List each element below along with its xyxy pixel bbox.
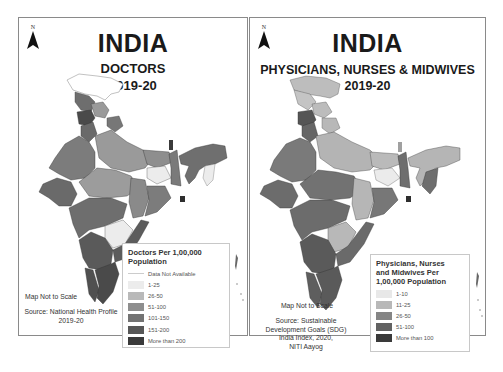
legend-item: 1-25 xyxy=(128,279,225,290)
legend-item: Data Not Available xyxy=(128,268,225,279)
legend-item: 51-100 xyxy=(376,322,465,333)
source-note: Source: Sustainable Development Goals (S… xyxy=(252,317,360,351)
map-panel-physicians-nurses-midwives: N INDIA PHYSICIANS, NURSES & MIDWIVES 20… xyxy=(249,17,486,336)
legend-title: Doctors Per 1,00,000 Population xyxy=(128,248,225,266)
legend-title: Physicians, Nurses and Midwives Per 1,00… xyxy=(376,259,465,286)
legend-item: 26-50 xyxy=(376,310,465,321)
legend-doctors: Doctors Per 1,00,000 Population Data Not… xyxy=(122,243,230,348)
legend-item: More than 200 xyxy=(128,335,225,346)
source-note: Source: National Health Profile 2019-20 xyxy=(21,308,121,325)
legend-item: 11-25 xyxy=(376,299,465,310)
legend-physicians: Physicians, Nurses and Midwives Per 1,00… xyxy=(370,254,470,352)
legend-item: More than 100 xyxy=(376,333,465,344)
map-panel-doctors: N INDIA DOCTORS 2019-20 xyxy=(18,17,248,336)
legend-item: 101-150 xyxy=(128,313,225,324)
legend-item: 26-50 xyxy=(128,290,225,301)
andaman-nicobar-islands xyxy=(474,272,486,336)
scale-note: Map Not to Scale xyxy=(262,302,352,311)
legend-item: 1-10 xyxy=(376,288,465,299)
legend-item: 151-200 xyxy=(128,324,225,335)
scale-note: Map Not to Scale xyxy=(25,293,77,302)
andaman-nicobar-islands xyxy=(233,254,247,324)
legend-item: 51-100 xyxy=(128,302,225,313)
